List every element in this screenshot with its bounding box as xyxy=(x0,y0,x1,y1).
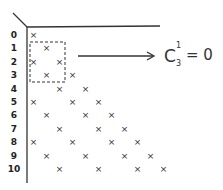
cross-mark-icon: × xyxy=(94,98,103,107)
cross-mark-icon: × xyxy=(29,98,38,107)
row-label: 3 xyxy=(5,70,23,80)
cross-mark-icon: × xyxy=(29,58,38,67)
row-label: 0 xyxy=(5,30,23,40)
row-label: 1 xyxy=(5,43,23,53)
cross-mark-icon: × xyxy=(94,165,103,174)
row-label: 6 xyxy=(5,110,23,120)
cross-mark-icon: × xyxy=(159,165,168,174)
cross-mark-icon: × xyxy=(55,125,64,134)
cross-mark-icon: × xyxy=(107,111,116,120)
cross-mark-icon: × xyxy=(133,138,142,147)
row-label: 4 xyxy=(5,84,23,94)
axes-and-annotations xyxy=(0,0,223,190)
formula-base: C xyxy=(164,46,176,66)
cross-mark-icon: × xyxy=(55,58,64,67)
cross-mark-icon: × xyxy=(55,165,64,174)
cross-mark-icon: × xyxy=(42,152,51,161)
top-axis-line xyxy=(27,26,160,27)
row-label: 8 xyxy=(5,137,23,147)
row-label: 10 xyxy=(5,164,23,174)
cross-mark-icon: × xyxy=(29,138,38,147)
formula-superscript: 1 xyxy=(176,41,181,50)
cross-mark-icon: × xyxy=(68,138,77,147)
cross-mark-icon: × xyxy=(42,111,51,120)
diagram-canvas: 012345678910 ×××××××××××××××××××××××××××… xyxy=(0,0,223,190)
cross-mark-icon: × xyxy=(29,31,38,40)
row-label: 5 xyxy=(5,97,23,107)
cross-mark-icon: × xyxy=(107,138,116,147)
cross-mark-icon: × xyxy=(133,165,142,174)
cross-mark-icon: × xyxy=(81,85,90,94)
row-label: 9 xyxy=(5,151,23,161)
formula-equals: = 0 xyxy=(186,46,213,64)
formula: C 1 3 = 0 xyxy=(164,46,176,66)
cross-mark-icon: × xyxy=(55,85,64,94)
cross-mark-icon: × xyxy=(42,71,51,80)
row-label: 7 xyxy=(5,124,23,134)
cross-mark-icon: × xyxy=(68,71,77,80)
row-label: 2 xyxy=(5,57,23,67)
cross-mark-icon: × xyxy=(120,125,129,134)
cross-mark-icon: × xyxy=(146,152,155,161)
cross-mark-icon: × xyxy=(81,152,90,161)
corner-diagonal-line xyxy=(13,13,27,27)
cross-mark-icon: × xyxy=(68,98,77,107)
cross-mark-icon: × xyxy=(94,125,103,134)
formula-subscript: 3 xyxy=(176,59,181,68)
cross-mark-icon: × xyxy=(120,152,129,161)
cross-mark-icon: × xyxy=(81,111,90,120)
cross-mark-icon: × xyxy=(42,44,51,53)
